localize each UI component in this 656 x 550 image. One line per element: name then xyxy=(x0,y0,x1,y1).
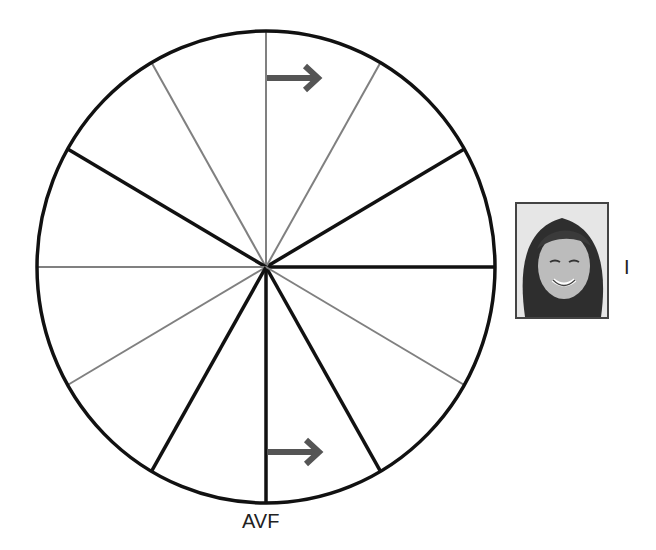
spoke-210 xyxy=(68,267,266,385)
spoke-150 xyxy=(68,149,266,267)
bottom-arrow-icon xyxy=(267,440,319,464)
spoke-330 xyxy=(266,267,464,385)
spoke-60 xyxy=(266,63,381,267)
avf-lead-label: AVF xyxy=(242,510,279,533)
spokes xyxy=(37,31,495,503)
top-arrow-icon xyxy=(267,66,318,90)
spoke-240 xyxy=(152,267,267,471)
spoke-120 xyxy=(152,63,267,267)
patient-photo xyxy=(515,202,609,319)
face-portrait-icon xyxy=(517,204,607,317)
lead-i-label: I xyxy=(624,256,630,279)
spoke-300 xyxy=(266,267,381,471)
spoke-30 xyxy=(266,149,464,267)
